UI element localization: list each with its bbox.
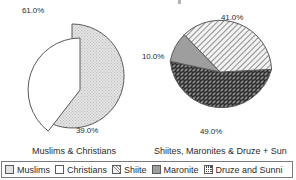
pie-svg-left [0,0,148,145]
christians-swatch-icon [55,165,64,174]
legend-item-shiite[interactable]: Shiite [112,165,147,175]
legend-item-muslims[interactable]: Muslims [5,165,50,175]
legend-label-druze-and-sunni: Druze and Sunni [216,165,283,175]
legend-label-muslims: Muslims [17,165,50,175]
pie-panel-muslims-christians: 61.0% 39.0% [0,0,148,145]
pie-panel-shiite-maronite-druze: 41.0% 10.0% 49.0% [148,0,296,145]
pie-label-muslims-pct: 61.0% [22,6,44,15]
legend-item-druze-and-sunni[interactable]: Druze and Sunni [204,165,283,175]
panel-caption-left: Muslims & Christians [0,146,148,157]
maronite-swatch-icon [152,165,161,174]
panel-caption-right: Shiites, Maronites & Druze + Sun [148,146,296,157]
legend-label-shiite: Shiite [124,165,147,175]
legend-label-maronite: Maronite [164,165,199,175]
chart-legend: Muslims Christians Shiite Maronite Druze… [1,161,293,178]
pie-label-christians-pct: 39.0% [76,126,98,135]
druze-and-sunni-swatch-icon [204,165,213,174]
pie-chart-figure: 61.0% 39.0% [0,0,296,180]
shiite-swatch-icon [112,165,121,174]
pie-label-druze-and-sunni-pct: 49.0% [200,127,222,136]
plot-area: 61.0% 39.0% [0,0,296,145]
pie-label-maronite-pct: 10.0% [142,52,164,61]
legend-label-christians: Christians [67,165,107,175]
pie-label-shiite-pct: 41.0% [221,13,243,22]
legend-item-christians[interactable]: Christians [55,165,107,175]
muslims-swatch-icon [5,165,14,174]
legend-item-maronite[interactable]: Maronite [152,165,199,175]
